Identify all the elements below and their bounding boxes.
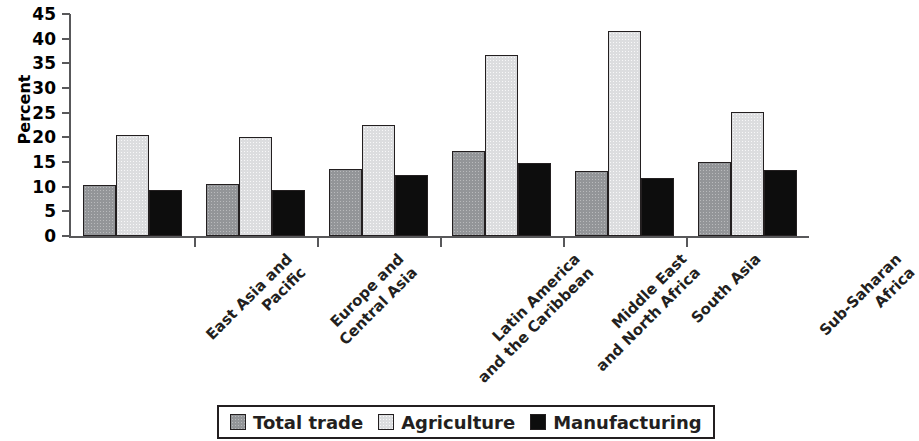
plot-area: [71, 14, 809, 236]
y-axis-tick-label: 30: [6, 80, 56, 97]
bar-group: [698, 14, 797, 236]
legend-swatch-icon: [530, 414, 546, 430]
x-axis-category-label-line: Latin America: [461, 250, 585, 374]
x-axis-group-separator: [440, 238, 442, 247]
legend-label: Manufacturing: [553, 412, 702, 433]
x-axis-category-label: East Asia andPacific: [203, 250, 310, 357]
bar: [518, 163, 551, 236]
y-axis-tick-label: 40: [6, 30, 56, 47]
legend-item: Total trade: [230, 412, 363, 433]
bar: [116, 135, 149, 236]
x-axis-category-label: Middle Eastand North Africa: [579, 250, 704, 375]
bar: [149, 190, 182, 236]
x-axis-category-label: Europe andCentral Asia: [322, 250, 421, 349]
x-axis-group-separator: [317, 238, 319, 247]
legend-item: Manufacturing: [530, 412, 702, 433]
bar-group: [329, 14, 428, 236]
bar: [452, 151, 485, 236]
x-axis-category-label: Sub-SaharanAfrica: [816, 250, 919, 353]
y-axis-tick-labels: 051015202530354045: [0, 0, 70, 441]
bar: [731, 112, 764, 236]
x-axis-category-label: Latin Americaand the Caribbean: [461, 250, 598, 387]
bar: [395, 175, 428, 236]
bar: [206, 184, 239, 236]
bar: [329, 169, 362, 236]
x-axis-category-label-line: South Asia: [688, 250, 765, 327]
bar: [764, 170, 797, 236]
bar: [485, 55, 518, 236]
x-axis-category-label-line: and the Caribbean: [474, 263, 598, 387]
x-axis-group-separator: [686, 238, 688, 247]
y-axis-tick-label: 45: [6, 6, 56, 23]
y-axis-tick-label: 5: [6, 203, 56, 220]
bar: [362, 125, 395, 236]
y-axis-tick-label: 15: [6, 154, 56, 171]
legend-item: Agriculture: [378, 412, 515, 433]
bar-group: [575, 14, 674, 236]
chart-legend: Total tradeAgricultureManufacturing: [217, 405, 715, 439]
legend-swatch-icon: [230, 414, 246, 430]
bar-group: [452, 14, 551, 236]
x-axis-group-separator: [563, 238, 565, 247]
legend-swatch-icon: [378, 414, 394, 430]
bar: [608, 31, 641, 236]
legend-label: Agriculture: [401, 412, 515, 433]
bar: [575, 171, 608, 236]
y-axis-tick-label: 10: [6, 178, 56, 195]
x-axis-line: [69, 236, 809, 238]
x-axis-group-separator: [194, 238, 196, 247]
x-axis-category-label: South Asia: [688, 250, 765, 327]
bar: [83, 185, 116, 236]
legend-label: Total trade: [253, 412, 363, 433]
y-axis-tick-label: 0: [6, 228, 56, 245]
y-axis-tick-label: 20: [6, 129, 56, 146]
bar-group: [206, 14, 305, 236]
y-axis-tick-label: 35: [6, 55, 56, 72]
bar: [698, 162, 731, 236]
y-axis-tick-label: 25: [6, 104, 56, 121]
bar: [272, 190, 305, 236]
bar: [641, 178, 674, 236]
bar: [239, 137, 272, 236]
bar-group: [83, 14, 182, 236]
